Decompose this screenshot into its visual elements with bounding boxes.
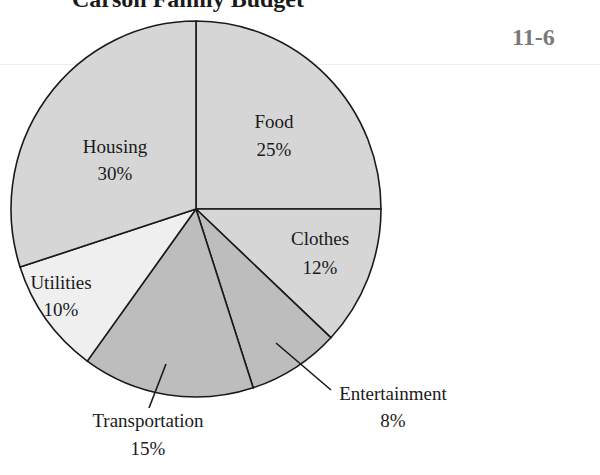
food-value: 25% — [257, 139, 292, 160]
housing-label: Housing — [83, 136, 148, 157]
utilities-value: 10% — [44, 299, 79, 320]
food-label: Food — [254, 111, 294, 132]
utilities-label: Utilities — [30, 272, 91, 293]
transportation-label: Transportation — [92, 410, 204, 431]
pie-chart: Food 25% Clothes 12% Entertainment 8% Tr… — [0, 0, 600, 475]
housing-value: 30% — [98, 163, 133, 184]
pie-slices — [11, 21, 381, 397]
clothes-value: 12% — [303, 257, 338, 278]
entertainment-label: Entertainment — [339, 383, 447, 404]
transportation-value: 15% — [131, 438, 166, 459]
entertainment-value: 8% — [380, 410, 406, 431]
clothes-label: Clothes — [291, 228, 349, 249]
